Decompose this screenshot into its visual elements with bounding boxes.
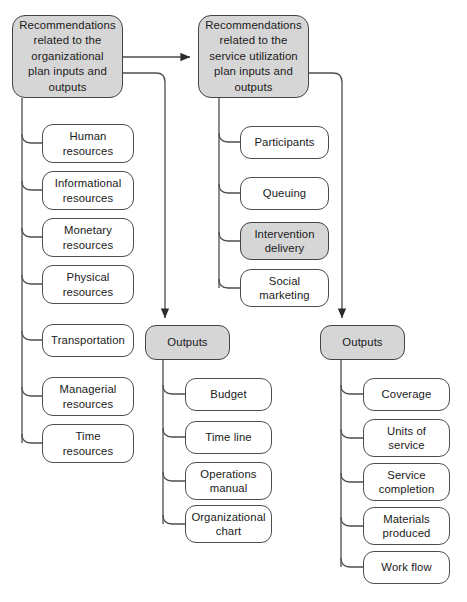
node-label: Transportation bbox=[51, 333, 125, 347]
node-organizational-chart[interactable]: Organizational chart bbox=[185, 505, 272, 543]
node-label: Social marketing bbox=[259, 274, 310, 302]
elbow-operations-manual bbox=[163, 472, 185, 481]
node-root-service-utilization[interactable]: Recommendations related to the service u… bbox=[198, 15, 309, 98]
node-label: Units of service bbox=[387, 424, 426, 452]
node-label: Budget bbox=[210, 387, 246, 401]
node-label: Operations manual bbox=[200, 467, 256, 495]
elbow-physical-resources bbox=[22, 275, 42, 284]
node-units-of-service[interactable]: Units of service bbox=[363, 419, 450, 457]
node-queuing[interactable]: Queuing bbox=[240, 177, 329, 210]
node-managerial-resources[interactable]: Managerial resources bbox=[42, 377, 134, 416]
elbow-social-marketing bbox=[219, 279, 240, 288]
node-label: Outputs bbox=[167, 335, 207, 349]
elbow-service-completion bbox=[341, 473, 363, 482]
elbow-transportation bbox=[22, 331, 42, 340]
node-operations-manual[interactable]: Operations manual bbox=[185, 462, 272, 500]
node-label: Monetary resources bbox=[63, 223, 114, 251]
node-coverage[interactable]: Coverage bbox=[363, 378, 450, 411]
node-label: Informational resources bbox=[55, 176, 122, 204]
node-label: Outputs bbox=[342, 335, 382, 349]
node-label: Organizational chart bbox=[191, 510, 265, 538]
node-label: Queuing bbox=[263, 186, 306, 200]
elbow-human-resources bbox=[22, 134, 42, 143]
elbow-budget bbox=[163, 385, 185, 394]
node-label: Coverage bbox=[382, 387, 432, 401]
elbow-intervention-delivery bbox=[219, 232, 240, 241]
node-materials-produced[interactable]: Materials produced bbox=[363, 507, 450, 545]
elbow-time-resources bbox=[22, 434, 42, 443]
elbow-coverage bbox=[341, 385, 363, 394]
node-participants[interactable]: Participants bbox=[240, 126, 329, 159]
node-budget[interactable]: Budget bbox=[185, 378, 272, 411]
node-transportation[interactable]: Transportation bbox=[42, 324, 134, 357]
node-outputs-service[interactable]: Outputs bbox=[320, 325, 405, 360]
node-outputs-organizational[interactable]: Outputs bbox=[145, 325, 230, 360]
elbow-organizational-chart bbox=[163, 515, 185, 524]
node-label: Time line bbox=[205, 430, 251, 444]
node-label: Human resources bbox=[63, 129, 114, 157]
elbow-units-of-service bbox=[341, 429, 363, 438]
node-label: Service completion bbox=[379, 468, 435, 496]
node-label: Participants bbox=[254, 135, 314, 149]
elbow-managerial-resources bbox=[22, 387, 42, 396]
node-physical-resources[interactable]: Physical resources bbox=[42, 265, 134, 304]
node-label: Intervention delivery bbox=[254, 227, 314, 255]
node-label: Work flow bbox=[381, 560, 431, 574]
elbow-time-line bbox=[163, 428, 185, 437]
node-monetary-resources[interactable]: Monetary resources bbox=[42, 218, 134, 257]
diagram-canvas: Recommendations related to the organizat… bbox=[0, 0, 467, 602]
elbow-materials-produced bbox=[341, 517, 363, 526]
node-root-organizational[interactable]: Recommendations related to the organizat… bbox=[12, 15, 123, 98]
node-label: Time resources bbox=[63, 429, 114, 457]
node-time-line[interactable]: Time line bbox=[185, 421, 272, 454]
node-time-resources[interactable]: Time resources bbox=[42, 424, 134, 463]
node-work-flow[interactable]: Work flow bbox=[363, 551, 450, 584]
node-human-resources[interactable]: Human resources bbox=[42, 124, 134, 163]
node-social-marketing[interactable]: Social marketing bbox=[240, 269, 329, 307]
elbow-informational-resources bbox=[22, 181, 42, 190]
node-label: Materials produced bbox=[383, 512, 431, 540]
node-label: Recommendations related to the service u… bbox=[205, 18, 301, 96]
elbow-queuing bbox=[219, 184, 240, 193]
node-informational-resources[interactable]: Informational resources bbox=[42, 171, 134, 210]
node-label: Managerial resources bbox=[60, 382, 117, 410]
node-intervention-delivery[interactable]: Intervention delivery bbox=[240, 222, 329, 260]
elbow-work-flow bbox=[341, 558, 363, 567]
node-label: Physical resources bbox=[63, 270, 114, 298]
elbow-monetary-resources bbox=[22, 228, 42, 237]
elbow-participants bbox=[219, 133, 240, 142]
node-label: Recommendations related to the organizat… bbox=[19, 18, 115, 96]
node-service-completion[interactable]: Service completion bbox=[363, 463, 450, 501]
